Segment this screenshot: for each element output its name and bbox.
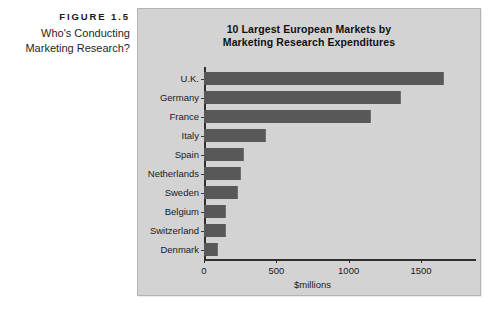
bar-row: U.K. [204, 69, 421, 88]
bar-netherlands [204, 167, 241, 180]
x-tick [204, 259, 205, 263]
x-tick-label: 0 [201, 265, 206, 276]
bar-row: Sweden [204, 183, 421, 202]
plot-area: U.K. Germany France Italy Spain Netherla… [204, 69, 421, 259]
bar-switzerland [204, 224, 226, 237]
bar-uk [204, 72, 444, 85]
x-tick [349, 259, 350, 263]
x-tick [276, 259, 277, 263]
x-tick-label: 1500 [410, 265, 431, 276]
category-label: U.K. [181, 74, 199, 84]
bar-spain [204, 148, 244, 161]
x-axis-title: $millions [204, 279, 421, 290]
bar-row: Netherlands [204, 164, 421, 183]
x-tick-label: 1000 [338, 265, 359, 276]
bar-row: Switzerland [204, 221, 421, 240]
bar-row: Italy [204, 126, 421, 145]
category-label: Denmark [160, 245, 199, 255]
category-label: Netherlands [148, 169, 199, 179]
bar-denmark [204, 243, 218, 256]
bar-italy [204, 129, 266, 142]
category-label: Spain [175, 150, 199, 160]
bar-row: Germany [204, 88, 421, 107]
figure-caption-line-1: Who's Conducting [41, 27, 130, 39]
category-label: France [169, 112, 199, 122]
x-tick-label: 500 [268, 265, 284, 276]
bar-row: Spain [204, 145, 421, 164]
bar-row: Denmark [204, 240, 421, 259]
bar-france [204, 110, 371, 123]
category-label: Germany [160, 93, 199, 103]
bar-row: France [204, 107, 421, 126]
bar-germany [204, 91, 401, 104]
chart-title-line-2: Marketing Research Expenditures [138, 36, 480, 49]
chart-title: 10 Largest European Markets by Marketing… [138, 23, 480, 49]
figure-number: FIGURE 1.5 [0, 10, 130, 24]
bar-belgium [204, 205, 226, 218]
chart-panel: 10 Largest European Markets by Marketing… [137, 8, 481, 296]
figure-caption-block: FIGURE 1.5 Who's Conducting Marketing Re… [0, 10, 130, 55]
figure-caption: Who's Conducting Marketing Research? [0, 26, 130, 55]
x-tick [421, 259, 422, 263]
category-label: Italy [182, 131, 199, 141]
category-label: Sweden [165, 188, 199, 198]
figure-caption-line-2: Marketing Research? [25, 42, 130, 54]
x-axis-line [204, 259, 476, 261]
category-label: Switzerland [150, 226, 199, 236]
chart-title-line-1: 10 Largest European Markets by [138, 23, 480, 36]
category-label: Belgium [165, 207, 199, 217]
bar-row: Belgium [204, 202, 421, 221]
bar-sweden [204, 186, 238, 199]
